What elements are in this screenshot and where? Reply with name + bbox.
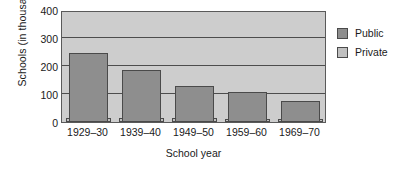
y-axis-tick-label: 200: [40, 61, 58, 73]
bar-group: [221, 12, 274, 122]
x-axis-tick-label: 1969–70: [279, 126, 320, 138]
bar-public: [175, 86, 214, 122]
legend-label: Public: [355, 27, 384, 39]
bar-chart: Schools (in thousands) 0100200300400 192…: [0, 0, 408, 179]
bar-public: [122, 70, 161, 122]
bar-public: [69, 53, 108, 122]
x-axis-tick-label: 1939–40: [120, 126, 161, 138]
legend-item: Public: [337, 27, 388, 39]
bar-group: [115, 12, 168, 122]
y-axis-tick-label: 300: [40, 33, 58, 45]
legend-swatch: [337, 47, 348, 58]
bar-group: [168, 12, 221, 122]
y-axis-tick-label: 0: [52, 117, 58, 129]
bar-public: [228, 92, 267, 122]
x-axis-tick-label: 1959–60: [226, 126, 267, 138]
plot-area: [61, 11, 326, 123]
x-axis-tick-label: 1949–50: [173, 126, 214, 138]
chart-legend: PublicPrivate: [337, 27, 388, 58]
y-axis-tick-label: 100: [40, 89, 58, 101]
x-axis-title: School year: [61, 147, 326, 159]
legend-label: Private: [355, 46, 388, 58]
x-axis-tick-label: 1929–30: [67, 126, 108, 138]
y-axis-title: Schools (in thousands): [16, 0, 28, 92]
y-axis-tick-label: 400: [40, 5, 58, 17]
bar-group: [274, 12, 327, 122]
bar-series-container: [62, 12, 325, 122]
bar-public: [281, 101, 320, 122]
y-axis-tick-labels: 0100200300400: [28, 0, 58, 179]
legend-item: Private: [337, 46, 388, 58]
x-axis-tick-labels: 1929–301939–401949–501959–601969–70: [61, 126, 326, 142]
legend-swatch: [337, 28, 348, 39]
bar-group: [62, 12, 115, 122]
